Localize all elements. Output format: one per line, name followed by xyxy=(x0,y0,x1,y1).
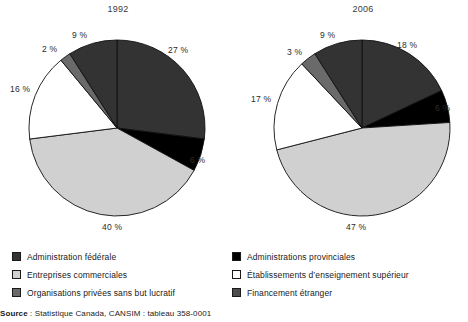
pie-svg-1992 xyxy=(0,0,234,240)
pie-2006-label-9: 9 % xyxy=(320,30,335,40)
pie-2006-label-47: 47 % xyxy=(346,222,366,232)
legend-swatch-financement-etranger xyxy=(232,288,241,297)
source-prefix: Source xyxy=(0,309,28,318)
pie-svg-2006 xyxy=(245,0,468,240)
legend-item-entreprises-commerciales: Entreprises commerciales xyxy=(12,266,175,283)
pie-chart-2006: 18 % 6 % 47 % 17 % 3 % 9 % xyxy=(245,0,468,240)
legend-swatch-administration-federale xyxy=(12,252,21,261)
legend-label-financement-etranger: Financement étranger xyxy=(247,288,332,298)
pie-slice-27 xyxy=(117,40,205,139)
legend-label-administrations-provinciales: Administrations provinciales xyxy=(247,252,355,262)
pie-2006-label-17: 17 % xyxy=(251,94,271,104)
pie-chart-1992: 27 % 6 % 40 % 16 % 2 % 9 % xyxy=(0,0,234,240)
legend-item-etablissements-enseignement: Établissements d’enseignement supérieur xyxy=(232,266,409,283)
pie-2006-label-18: 18 % xyxy=(397,40,417,50)
pie-1992-label-27: 27 % xyxy=(168,45,188,55)
pie-1992-label-16: 16 % xyxy=(10,84,30,94)
legend: Administration fédérale Entreprises comm… xyxy=(0,248,468,303)
legend-item-organisations-privees: Organisations privées sans but lucratif xyxy=(12,284,175,301)
pie-2006-label-3: 3 % xyxy=(287,47,302,57)
legend-column-left: Administration fédérale Entreprises comm… xyxy=(12,248,175,302)
pie-1992-label-2: 2 % xyxy=(42,44,57,54)
legend-label-entreprises-commerciales: Entreprises commerciales xyxy=(27,270,127,280)
source-text: : Statistique Canada, CANSIM : tableau 3… xyxy=(28,309,212,318)
pie-1992-label-40: 40 % xyxy=(102,222,122,232)
legend-label-etablissements-enseignement: Établissements d’enseignement supérieur xyxy=(247,270,409,280)
legend-swatch-etablissements-enseignement xyxy=(232,270,241,279)
legend-item-financement-etranger: Financement étranger xyxy=(232,284,409,301)
legend-column-right: Administrations provinciales Établisseme… xyxy=(232,248,409,302)
legend-swatch-organisations-privees xyxy=(12,288,21,297)
legend-swatch-administrations-provinciales xyxy=(232,252,241,261)
pie-2006-label-6: 6 % xyxy=(435,103,450,113)
legend-item-administrations-provinciales: Administrations provinciales xyxy=(232,248,409,265)
figure-two-pie-charts: 1992 27 % 6 % 40 % 16 % 2 % 9 % 2006 18 … xyxy=(0,0,468,322)
source-note: Source : Statistique Canada, CANSIM : ta… xyxy=(0,309,468,318)
legend-swatch-entreprises-commerciales xyxy=(12,270,21,279)
legend-label-organisations-privees: Organisations privées sans but lucratif xyxy=(27,288,175,298)
legend-item-administration-federale: Administration fédérale xyxy=(12,248,175,265)
pie-1992-label-9: 9 % xyxy=(72,30,87,40)
legend-label-administration-federale: Administration fédérale xyxy=(27,252,116,262)
pie-1992-label-6: 6 % xyxy=(190,155,205,165)
